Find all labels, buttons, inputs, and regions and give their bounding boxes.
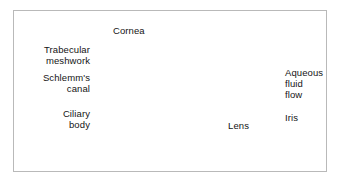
label-trabecular-line2: meshwork (28, 55, 90, 66)
label-aqueous-line3: flow (285, 89, 323, 100)
label-iris-line1: Iris (285, 112, 298, 123)
label-schlemms-line2: canal (26, 83, 90, 94)
label-ciliary-body: Ciliary body (26, 108, 90, 130)
label-ciliary-line2: body (26, 119, 90, 130)
label-aqueous-fluid-flow: Aqueous fluid flow (285, 67, 323, 100)
label-schlemms-line1: Schlemm's (26, 72, 90, 83)
label-lens: Lens (228, 120, 249, 131)
label-iris: Iris (285, 112, 298, 123)
label-aqueous-line1: Aqueous (285, 67, 323, 78)
label-cornea: Cornea (113, 25, 145, 36)
label-lens-line1: Lens (228, 120, 249, 131)
label-aqueous-line2: fluid (285, 78, 323, 89)
label-schlemms-canal: Schlemm's canal (26, 72, 90, 94)
label-trabecular-line1: Trabecular (28, 44, 90, 55)
label-trabecular-meshwork: Trabecular meshwork (28, 44, 90, 66)
label-ciliary-line1: Ciliary (26, 108, 90, 119)
label-cornea-line1: Cornea (113, 25, 145, 36)
